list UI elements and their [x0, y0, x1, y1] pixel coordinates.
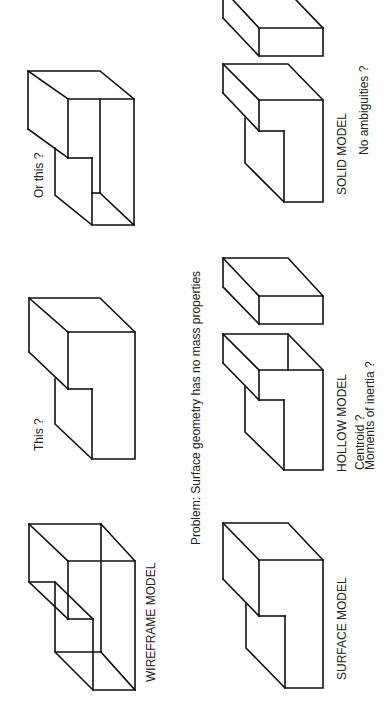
solid-model-label: SOLID MODEL — [335, 113, 349, 195]
wireframe-model-label: WIREFRAME MODEL — [144, 562, 158, 682]
wireframe-model-figure — [29, 524, 135, 690]
this-question-label: This ? — [32, 418, 46, 451]
surface-model-label: SURFACE MODEL — [335, 577, 349, 680]
problem-statement: Problem: Surface geometry has no mass pr… — [189, 271, 203, 545]
solid-model-figure — [223, 0, 323, 202]
cad-models-diagram: WIREFRAME MODEL SURFACE MODEL Problem: S… — [0, 0, 392, 720]
or-this-question-label: Or this ? — [32, 152, 46, 198]
hollow-model-label: HOLLOW MODEL — [335, 374, 349, 472]
hollow-inertia-question: Moments of inertia ? — [363, 361, 377, 470]
hollow-model-figure — [223, 258, 323, 470]
surface-model-figure — [223, 523, 323, 688]
or-this-model-figure — [28, 71, 134, 225]
solid-ambiguities-question: No ambiguities ? — [357, 65, 371, 155]
